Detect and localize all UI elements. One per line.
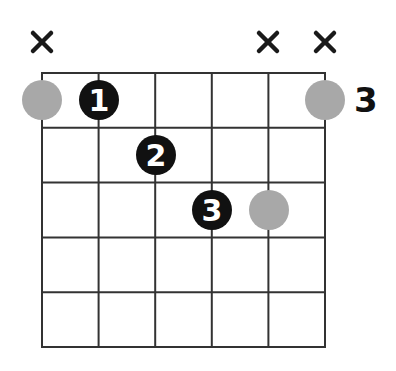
finger-number-3: 3 bbox=[202, 193, 223, 228]
optional-dot-string-6 bbox=[305, 80, 345, 120]
optional-dot-string-1 bbox=[22, 80, 62, 120]
finger-number-1: 1 bbox=[89, 83, 110, 118]
mute-icon-string-6 bbox=[316, 33, 334, 51]
mute-icon-string-1 bbox=[33, 33, 51, 51]
finger-number-2: 2 bbox=[146, 138, 167, 173]
mute-icon-string-5 bbox=[259, 33, 277, 51]
optional-dot-string-5 bbox=[249, 190, 289, 230]
fret-position-label: 3 bbox=[354, 80, 378, 120]
mute-markers bbox=[33, 33, 334, 51]
optional-dots bbox=[22, 80, 345, 230]
chord-diagram: 1 2 3 3 bbox=[0, 0, 396, 371]
